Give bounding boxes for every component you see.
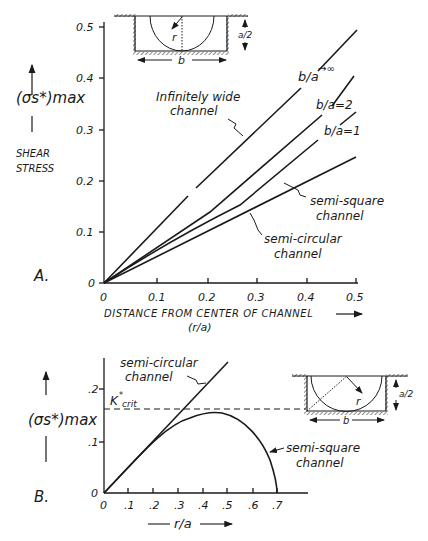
ann-b-a-2: b/a=2: [316, 98, 353, 112]
x-tick-label: 0.2: [198, 291, 216, 304]
panel-a-ylabel-symbol: (σs*)max: [16, 89, 85, 107]
panel-b-y-ticks: 0 .1 .2: [88, 383, 104, 500]
ann-k-crit: K: [110, 394, 119, 408]
x-tick-label: 0: [100, 499, 107, 512]
panel-b-ylabel-symbol: (σs*)max: [28, 411, 97, 429]
y-tick-label: 0.2: [76, 175, 94, 188]
y-tick-label: 0: [88, 277, 95, 290]
x-tick-label: .2: [149, 499, 160, 512]
x-tick-label: .3: [174, 499, 185, 512]
curve-semi-square-b: [104, 413, 277, 493]
inset-b-label: b: [343, 415, 349, 426]
panel-a-ylabel-stress: STRESS: [16, 163, 55, 174]
x-tick-label: .4: [198, 499, 209, 512]
panel-a-x-ticks: 0 0.1 0.2 0.3 0.4 0.5: [100, 278, 364, 304]
leader-infinite: [228, 119, 243, 136]
panel-b-chart: (σs*)max B. 0 .1 .2 0 .1 .2 .3 .4 .5: [28, 356, 414, 531]
leader-semi-square: [284, 183, 306, 197]
ann-semi-circular-channel-b: channel: [125, 370, 173, 384]
x-tick-label: .5: [222, 499, 233, 512]
leader-semi-circular: [250, 213, 262, 235]
x-tick-label: .6: [248, 499, 259, 512]
inset-r-label: r: [356, 395, 362, 408]
x-tick-label: .1: [124, 499, 135, 512]
panel-a-y-ticks: 0 0.1 0.2 0.3 0.4 0.5: [76, 21, 104, 290]
y-tick-label: .2: [88, 383, 99, 396]
panel-b-xlabel: r/a: [174, 516, 192, 531]
panel-a-xlabel: DISTANCE FROM CENTER OF CHANNEL: [104, 308, 313, 319]
ann-k-crit-sub: crit: [122, 399, 137, 409]
ann-semi-square-channel-b: channel: [296, 456, 344, 470]
ann-semi-square: semi-square: [310, 194, 384, 208]
ann-semi-circular-channel: channel: [274, 247, 322, 261]
y-tick-label: .1: [88, 436, 99, 449]
panel-b-inset-channel: r b a/2: [292, 374, 414, 426]
panel-a-xlabel-unit: (r/a): [188, 321, 212, 334]
y-tick-label: 0.4: [76, 72, 94, 85]
leader-semi-circular-b: [187, 376, 206, 384]
x-tick-label: 0: [100, 291, 107, 304]
leader-semi-square-b: [270, 448, 284, 452]
x-tick-label: 0.4: [297, 291, 315, 304]
ann-semi-square-channel: channel: [316, 209, 364, 223]
ann-semi-square-b: semi-square: [286, 441, 360, 455]
ann-infinitely-wide-channel: channel: [170, 104, 218, 118]
panel-a-chart: (σs*)max SHEAR STRESS 0 0.1 0.2 0.3 0.4 …: [16, 14, 384, 334]
inset-r-label: r: [172, 31, 178, 44]
panel-a-ylabel-shear: SHEAR: [16, 148, 50, 159]
panel-b-x-ticks: 0 .1 .2 .3 .4 .5 .6 .7: [100, 488, 283, 512]
y-tick-label: 0.1: [76, 226, 94, 239]
x-tick-label: 0.3: [247, 291, 265, 304]
panel-b-label: B.: [34, 488, 49, 506]
figure: (σs*)max SHEAR STRESS 0 0.1 0.2 0.3 0.4 …: [0, 0, 428, 541]
inset-b-label: b: [178, 54, 185, 67]
y-tick-label: 0.3: [76, 124, 94, 137]
inset-a2-label: a/2: [238, 30, 253, 40]
ann-semi-circular-b: semi-circular: [120, 356, 199, 370]
panel-a-label: A.: [33, 267, 49, 285]
y-tick-label: 0: [91, 487, 98, 500]
ann-b-a-1: b/a=1: [324, 124, 361, 138]
x-tick-label: 0.5: [346, 291, 364, 304]
inset-a2-label: a/2: [399, 389, 414, 399]
ann-infinitely-wide: Infinitely wide: [156, 90, 240, 104]
ann-b-a-inf-sup: →∞: [318, 63, 335, 74]
ann-semi-circular: semi-circular: [264, 232, 343, 246]
x-tick-label: .7: [272, 499, 283, 512]
panel-a-inset-channel: r b a/2: [114, 14, 253, 67]
x-tick-label: 0.1: [148, 291, 166, 304]
y-tick-label: 0.5: [76, 21, 94, 34]
ann-b-a-inf: b/a: [298, 69, 319, 84]
